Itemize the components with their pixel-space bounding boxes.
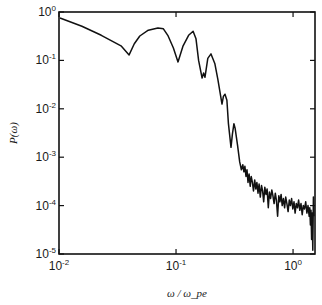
y-tick-label: 10-4 [36,198,57,213]
y-tick-label: 100 [38,4,56,19]
x-tick-label: 10-1 [166,258,187,273]
y-axis-title: P(ω) [7,122,20,145]
y-tick-label: 10-1 [36,52,57,67]
x-axis-tick-labels: 10-210-1100 [49,258,303,273]
x-tick-label: 10-2 [49,258,70,273]
x-tick-label: 100 [284,258,302,273]
y-axis-tick-labels: 10010-110-210-310-410-5 [36,4,57,261]
plot-area [59,12,315,254]
x-axis-title: ω / ω_pe [167,287,207,299]
y-tick-label: 10-3 [36,149,57,164]
power-spectrum-chart: 10-210-1100 10010-110-210-310-410-5 ω / … [0,0,322,305]
y-tick-label: 10-2 [36,101,57,116]
